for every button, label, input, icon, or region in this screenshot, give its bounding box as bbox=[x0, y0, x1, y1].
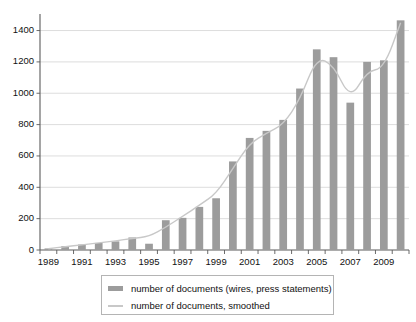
chart-legend: number of documents (wires, press statem… bbox=[101, 275, 334, 315]
bar-2009 bbox=[380, 60, 388, 250]
x-tick-label: 1991 bbox=[71, 256, 92, 267]
y-tick-label: 1400 bbox=[13, 24, 34, 35]
y-tick-label: 1200 bbox=[13, 55, 34, 66]
x-tick-label: 1995 bbox=[138, 256, 159, 267]
x-tick-label: 1999 bbox=[206, 256, 227, 267]
bar-1998 bbox=[195, 207, 203, 250]
bar-2004 bbox=[296, 89, 304, 250]
y-tick-label: 0 bbox=[29, 244, 34, 255]
legend-swatch-bar-icon bbox=[108, 286, 123, 291]
bar-2002 bbox=[263, 131, 271, 250]
x-tick-label: 1993 bbox=[105, 256, 126, 267]
y-tick-label: 600 bbox=[18, 149, 34, 160]
y-tick-label: 1000 bbox=[13, 87, 34, 98]
bar-2000 bbox=[229, 161, 237, 250]
x-tick-label: 2003 bbox=[273, 256, 294, 267]
legend-swatch-line-icon bbox=[108, 305, 123, 307]
bar-1993 bbox=[112, 241, 120, 250]
y-tick-label: 200 bbox=[18, 212, 34, 223]
legend-item-bars: number of documents (wires, press statem… bbox=[108, 280, 327, 297]
bar-1995 bbox=[145, 244, 153, 250]
y-tick-label: 800 bbox=[18, 118, 34, 129]
bar-2006 bbox=[330, 57, 338, 250]
legend-label-bars: number of documents (wires, press statem… bbox=[131, 283, 332, 294]
x-tick-label: 1997 bbox=[172, 256, 193, 267]
y-tick-label: 400 bbox=[18, 181, 34, 192]
x-tick-label: 2009 bbox=[373, 256, 394, 267]
bar-1997 bbox=[179, 218, 187, 250]
legend-label-smoothed: number of documents, smoothed bbox=[131, 300, 270, 311]
chart-plot-area: 0200400600800100012001400198919911993199… bbox=[0, 0, 416, 322]
bar-2001 bbox=[246, 138, 254, 250]
bar-2005 bbox=[313, 49, 321, 250]
x-tick-label: 2005 bbox=[306, 256, 327, 267]
bar-2003 bbox=[279, 120, 287, 250]
legend-item-smoothed: number of documents, smoothed bbox=[108, 297, 327, 314]
x-tick-label: 2007 bbox=[340, 256, 361, 267]
bar-2008 bbox=[363, 62, 371, 250]
x-tick-label: 2001 bbox=[239, 256, 260, 267]
chart-container: 0200400600800100012001400198919911993199… bbox=[0, 0, 416, 322]
bar-1992 bbox=[95, 243, 103, 250]
bar-2007 bbox=[346, 103, 354, 250]
bar-1999 bbox=[212, 198, 220, 250]
x-tick-label: 1989 bbox=[38, 256, 59, 267]
bar-2010 bbox=[397, 20, 405, 250]
